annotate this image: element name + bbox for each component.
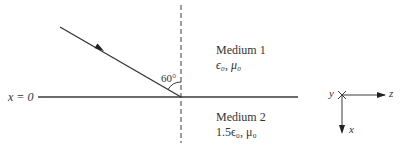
y-axis-label: y	[329, 88, 334, 99]
medium1-name: Medium 1	[216, 44, 266, 56]
x-axis-label: x	[349, 124, 354, 135]
medium2-params: 1.5ϵ₀, μ₀	[216, 126, 257, 138]
diagram-canvas	[0, 0, 403, 152]
x-axis-arrowhead-icon	[339, 125, 345, 134]
boundary-label: x = 0	[8, 91, 33, 103]
angle-label: 60°	[161, 73, 176, 84]
incident-ray	[60, 27, 181, 97]
z-axis-arrowhead-icon	[377, 92, 386, 98]
medium2-name: Medium 2	[216, 111, 266, 123]
medium1-params: ϵ₀, μ₀	[216, 59, 241, 71]
z-axis-label: z	[389, 88, 393, 99]
